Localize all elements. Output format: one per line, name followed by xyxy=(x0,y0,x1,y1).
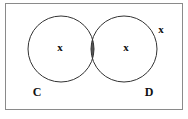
set-c-label: C xyxy=(33,85,42,99)
set-d-label: D xyxy=(145,85,154,99)
cropped-caption xyxy=(0,111,188,119)
marker-c-only: x xyxy=(57,41,63,53)
marker-outside: x xyxy=(158,23,164,35)
marker-d-only: x xyxy=(123,41,129,53)
venn-diagram: x x x C D xyxy=(0,0,188,119)
